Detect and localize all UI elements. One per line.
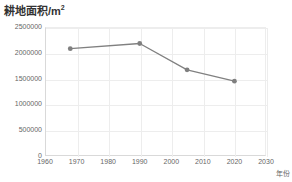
gridline-vertical bbox=[204, 28, 205, 157]
gridline-horizontal bbox=[46, 54, 267, 55]
gridline-horizontal bbox=[46, 131, 267, 132]
x-axis-label: 年份 bbox=[276, 168, 290, 178]
y-tick-label: 500000 bbox=[0, 126, 42, 133]
y-tick-label: 2000000 bbox=[0, 49, 42, 56]
gridline-vertical bbox=[172, 28, 173, 157]
gridline-horizontal bbox=[46, 28, 267, 29]
gridline-horizontal bbox=[46, 105, 267, 106]
gridline-vertical bbox=[109, 28, 110, 157]
y-tick-label: 1000000 bbox=[0, 100, 42, 107]
gridline-vertical bbox=[78, 28, 79, 157]
y-tick-label: 2500000 bbox=[0, 23, 42, 30]
chart-title-text: 耕地面积/m bbox=[4, 5, 61, 17]
gridline-vertical bbox=[235, 28, 236, 157]
x-tick-label: 2030 bbox=[246, 158, 286, 165]
chart-title: 耕地面积/m2 bbox=[4, 2, 65, 18]
chart-title-superscript: 2 bbox=[61, 4, 65, 11]
line-chart: 耕地面积/m2 年份 05000001000000150000020000002… bbox=[0, 0, 292, 182]
gridline-vertical bbox=[267, 28, 268, 157]
gridline-vertical bbox=[141, 28, 142, 157]
gridline-horizontal bbox=[46, 80, 267, 81]
y-tick-label: 1500000 bbox=[0, 75, 42, 82]
plot-area bbox=[45, 27, 266, 156]
